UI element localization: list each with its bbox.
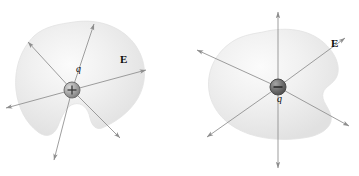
electric-field-figure: q E bbox=[0, 0, 359, 176]
panel-negative-charge: q E bbox=[179, 0, 359, 176]
field-label-E-right: E bbox=[331, 38, 338, 49]
panel-positive-charge: q E bbox=[0, 0, 180, 176]
charge-label-q-left: q bbox=[76, 64, 81, 74]
left-diagram-canvas bbox=[0, 0, 180, 176]
right-diagram-canvas bbox=[179, 0, 359, 176]
charge-label-q-right: q bbox=[277, 94, 282, 104]
point-charge-positive bbox=[64, 82, 80, 98]
gaussian-surface-left bbox=[16, 21, 145, 135]
field-label-E-left: E bbox=[120, 54, 127, 65]
